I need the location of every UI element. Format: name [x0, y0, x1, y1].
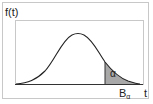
x-axis-label: t [144, 88, 147, 99]
y-axis-label: f(t) [5, 7, 18, 18]
b-alpha-label: Bα [119, 88, 130, 99]
b-subscript: α [126, 93, 130, 100]
density-curve [16, 34, 140, 85]
plot-box [16, 21, 144, 85]
alpha-label: α [110, 69, 116, 79]
